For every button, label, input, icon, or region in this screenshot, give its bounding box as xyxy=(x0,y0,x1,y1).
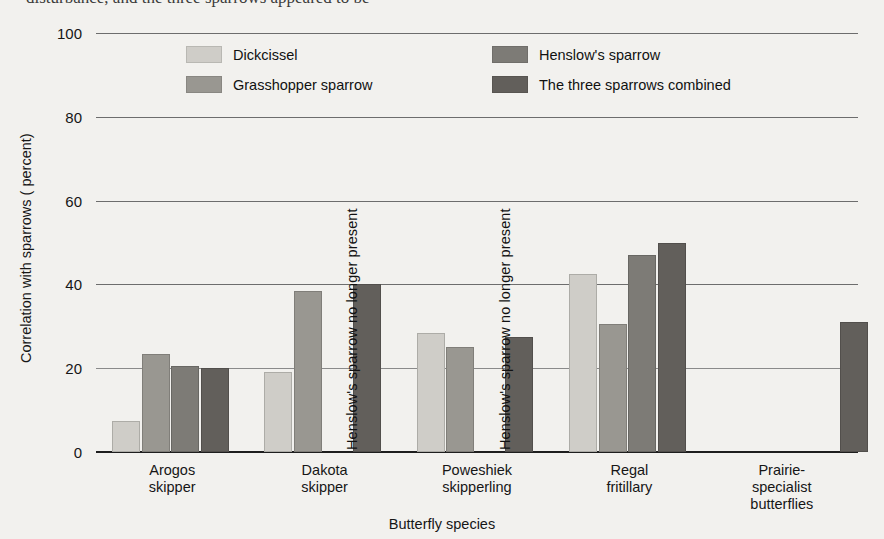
annotation-henslows-absent: Henslow's sparrow no longer present xyxy=(344,208,360,450)
bar-3 xyxy=(658,243,686,453)
legend-label: Dickcissel xyxy=(233,47,297,63)
x-axis-category-label-line: butterflies xyxy=(706,496,858,513)
x-axis-category-label-line: Regal xyxy=(553,462,705,479)
legend-swatch xyxy=(492,76,528,93)
y-axis-tick-label: 100 xyxy=(22,25,82,42)
bar-1 xyxy=(142,354,170,452)
bar-1 xyxy=(446,347,474,452)
bar-1 xyxy=(599,324,627,452)
x-axis-category-label-line: Poweshiek xyxy=(401,462,553,479)
legend-label: Henslow's sparrow xyxy=(539,47,660,63)
bar-2 xyxy=(171,366,199,452)
chart-page: disturbance, and the three sparrows appe… xyxy=(0,0,884,539)
x-axis-category-label-line: specialist xyxy=(706,479,858,496)
x-axis-category-label-line: Arogos xyxy=(96,462,248,479)
plot-area: 020406080100Correlation with sparrows ( … xyxy=(96,33,858,452)
legend-item: Dickcissel xyxy=(186,46,297,63)
legend-swatch xyxy=(492,46,528,63)
gridline-40 xyxy=(96,284,858,285)
x-axis-category-label-line: skipperling xyxy=(401,479,553,496)
bar-3 xyxy=(840,322,868,452)
bar-0 xyxy=(112,421,140,452)
gridline-80 xyxy=(96,117,858,118)
gridline-100 xyxy=(96,33,858,34)
legend-label: The three sparrows combined xyxy=(539,77,731,93)
bar-0 xyxy=(264,372,292,452)
x-axis-category-label-line: Prairie- xyxy=(706,462,858,479)
x-axis-category-label-line: fritillary xyxy=(553,479,705,496)
x-axis-category-label-line: skipper xyxy=(248,479,400,496)
x-axis-category-label-line: Dakota xyxy=(248,462,400,479)
gridline-60 xyxy=(96,201,858,202)
x-axis-category-label-line: skipper xyxy=(96,479,248,496)
x-axis-category-label: Dakotaskipper xyxy=(248,462,400,496)
y-axis-tick-label: 80 xyxy=(22,108,82,125)
x-axis-category-label: Regalfritillary xyxy=(553,462,705,496)
bar-3 xyxy=(201,368,229,452)
bar-0 xyxy=(417,333,445,452)
legend-swatch xyxy=(186,76,222,93)
x-axis-category-label: Poweshiekskipperling xyxy=(401,462,553,496)
legend-item: Henslow's sparrow xyxy=(492,46,660,63)
legend-label: Grasshopper sparrow xyxy=(233,77,372,93)
legend-swatch xyxy=(186,46,222,63)
legend-item: Grasshopper sparrow xyxy=(186,76,372,93)
x-axis-category-label: Arogosskipper xyxy=(96,462,248,496)
y-axis-tick-label: 0 xyxy=(22,444,82,461)
x-axis-category-label: Prairie-specialistbutterflies xyxy=(706,462,858,513)
annotation-henslows-absent: Henslow's sparrow no longer present xyxy=(497,208,513,450)
y-axis-title: Correlation with sparrows ( percent) xyxy=(18,133,34,363)
legend-item: The three sparrows combined xyxy=(492,76,731,93)
bar-2 xyxy=(628,255,656,452)
x-axis-title: Butterfly species xyxy=(0,516,884,532)
bar-0 xyxy=(569,274,597,452)
bar-1 xyxy=(294,291,322,452)
cut-off-body-text: disturbance, and the three sparrows appe… xyxy=(0,0,884,12)
